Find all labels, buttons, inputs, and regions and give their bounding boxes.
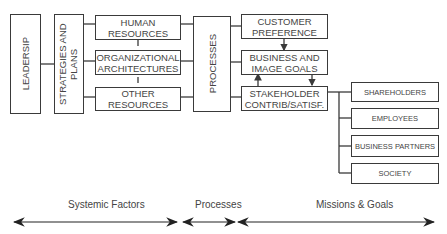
human-resources-label: HUMAN RESOURCES	[96, 17, 180, 39]
leadership-box: LEADERSIP	[10, 14, 41, 114]
other-resources-label: OTHER RESOURCES	[108, 88, 168, 110]
axis-processes: Processes	[195, 199, 242, 210]
stakeholder-label: STAKEHOLDER CONTRIB/SATISF.	[245, 88, 325, 110]
business-partners-label: BUSINESS PARTNERS	[355, 141, 435, 152]
org-architectures-box: ORGANIZATIONAL ARCHITECTURES	[95, 50, 181, 75]
strategies-label: STRATEGIES AND PLANS	[57, 15, 81, 113]
axis-missions-goals: Missions & Goals	[316, 199, 393, 210]
customer-preference-box: CUSTOMER PREFERENCE	[241, 14, 328, 39]
shareholders-box: SHAREHOLDERS	[351, 82, 439, 102]
employees-box: EMPLOYEES	[351, 108, 439, 129]
processes-label: PROCESSES	[207, 34, 218, 93]
processes-box: PROCESSES	[193, 16, 231, 112]
shareholders-label: SHAREHOLDERS	[364, 87, 426, 98]
society-label: SOCIETY	[379, 168, 412, 179]
employees-label: EMPLOYEES	[372, 113, 418, 124]
human-resources-box: HUMAN RESOURCES	[95, 15, 181, 40]
leadership-label: LEADERSIP	[20, 37, 31, 90]
stakeholder-box: STAKEHOLDER CONTRIB/SATISF.	[241, 86, 328, 111]
business-goals-box: BUSINESS AND IMAGE GOALS	[241, 50, 328, 75]
strategies-box: STRATEGIES AND PLANS	[54, 14, 84, 114]
other-resources-box: OTHER RESOURCES	[95, 87, 181, 111]
axis-systemic-factors: Systemic Factors	[68, 199, 145, 210]
customer-preference-label: CUSTOMER PREFERENCE	[242, 16, 327, 38]
business-partners-box: BUSINESS PARTNERS	[351, 135, 439, 157]
business-goals-label: BUSINESS AND IMAGE GOALS	[242, 52, 327, 74]
org-architectures-label: ORGANIZATIONAL ARCHITECTURES	[96, 52, 180, 74]
society-box: SOCIETY	[351, 163, 439, 184]
